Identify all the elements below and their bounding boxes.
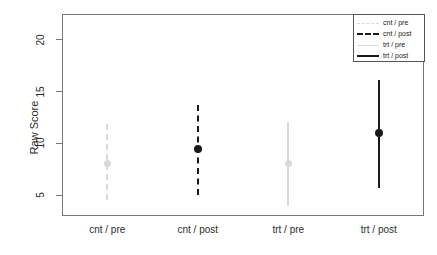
y-axis-tick-mark [56, 195, 62, 196]
data-point-marker [285, 160, 292, 167]
x-axis-tick-label: trt / post [324, 224, 434, 235]
y-axis-tick-label: 5 [34, 182, 48, 208]
legend-label: trt / pre [383, 41, 405, 49]
error-bar-chart: Raw Score 5101520 cnt / precnt / posttrt… [0, 0, 437, 255]
legend-label: trt / post [383, 52, 408, 60]
data-point-marker [194, 145, 202, 153]
legend-item: trt / post [357, 51, 421, 61]
legend-line-swatch [357, 55, 379, 57]
legend-line-swatch [357, 45, 379, 46]
data-point-marker [375, 129, 383, 137]
legend-item: cnt / pre [357, 18, 421, 28]
data-point-marker [104, 160, 111, 167]
legend-label: cnt / post [383, 30, 411, 38]
legend-item: trt / pre [357, 40, 421, 50]
y-axis-tick-label: 15 [34, 79, 48, 105]
legend-label: cnt / pre [383, 19, 408, 27]
y-axis-tick-label: 20 [34, 27, 48, 53]
legend-item: cnt / post [357, 29, 421, 39]
y-axis-tick-mark [56, 39, 62, 40]
y-axis-tick-mark [56, 91, 62, 92]
y-axis-tick-mark [56, 143, 62, 144]
legend-line-swatch [357, 33, 379, 35]
y-axis-tick-label: 10 [34, 130, 48, 156]
legend: cnt / precnt / posttrt / pretrt / post [353, 14, 425, 62]
legend-line-swatch [357, 23, 379, 24]
